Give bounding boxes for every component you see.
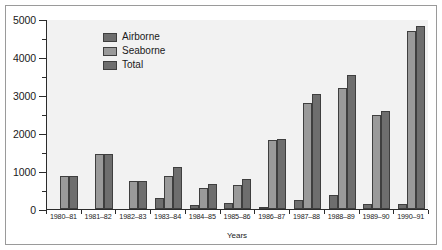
y-tick-label: 4000	[13, 52, 36, 64]
bar-total	[277, 139, 286, 209]
x-tick-label: 1981–82	[85, 212, 112, 221]
legend-swatch-icon	[103, 47, 117, 56]
bar-seaborne	[129, 181, 138, 209]
x-axis-title: Years	[46, 231, 428, 240]
legend-swatch-icon	[103, 61, 117, 70]
bar-group	[360, 20, 395, 209]
bar-seaborne	[268, 140, 277, 209]
bar-total	[173, 167, 182, 209]
bar-airborne	[190, 205, 199, 209]
bar-total	[69, 176, 78, 209]
y-tick-label: 3000	[13, 90, 36, 102]
bar-seaborne	[303, 103, 312, 209]
bar-airborne	[398, 204, 407, 209]
x-tick-label: 1983–84	[154, 212, 181, 221]
x-tick-label: 1986–87	[258, 212, 285, 221]
bar-group	[47, 20, 82, 209]
bar-airborne	[363, 204, 372, 209]
bar-airborne	[155, 198, 164, 209]
bar-seaborne	[372, 115, 381, 209]
legend-item-airborne: Airborne	[103, 31, 165, 43]
bar-seaborne	[233, 185, 242, 209]
bar-total	[416, 26, 425, 209]
bar-group	[394, 20, 429, 209]
legend-item-seaborne: Seaborne	[103, 45, 165, 57]
y-tick-major	[39, 134, 46, 135]
bar-total	[208, 184, 217, 209]
y-tick-label: 0	[30, 204, 36, 216]
bar-airborne	[259, 207, 268, 209]
y-tick-major	[39, 172, 46, 173]
bar-total	[104, 154, 113, 209]
legend-item-total: Total	[103, 59, 165, 71]
bar-airborne	[224, 203, 233, 209]
x-tick-label: 1987–88	[293, 212, 320, 221]
bar-seaborne	[199, 188, 208, 209]
y-tick-major	[39, 20, 46, 21]
bar-airborne	[294, 200, 303, 210]
bar-seaborne	[95, 154, 104, 209]
x-tick-label: 1980–81	[50, 212, 77, 221]
y-tick-major	[39, 96, 46, 97]
bar-seaborne	[60, 176, 69, 209]
bar-total	[381, 111, 390, 209]
y-tick-label: 2000	[13, 128, 36, 140]
bar-seaborne	[164, 176, 173, 209]
x-tick-label: 1982–83	[119, 212, 146, 221]
x-tick-label: 1985–86	[224, 212, 251, 221]
bar-seaborne	[407, 31, 416, 209]
y-tick-label: 5000	[13, 14, 36, 26]
bar-group	[325, 20, 360, 209]
y-axis: 010002000300040005000	[0, 0, 46, 212]
x-tick-label: 1984–85	[189, 212, 216, 221]
legend-label: Airborne	[122, 32, 160, 42]
x-tick-label: 1989–90	[362, 212, 389, 221]
x-tick-label: 1990–91	[397, 212, 424, 221]
x-tick-label: 1988–89	[328, 212, 355, 221]
legend-swatch-icon	[103, 33, 117, 42]
bar-airborne	[329, 195, 338, 209]
chart-legend: AirborneSeaborneTotal	[103, 31, 165, 71]
bar-total	[242, 179, 251, 209]
bar-total	[138, 181, 147, 209]
bar-seaborne	[338, 88, 347, 209]
bar-group	[290, 20, 325, 209]
bar-total	[312, 94, 321, 209]
chart-figure: 010002000300040005000 1980–811981–821982…	[0, 0, 442, 250]
bar-total	[347, 75, 356, 209]
y-tick-major	[39, 58, 46, 59]
bar-group	[186, 20, 221, 209]
x-tick	[428, 210, 429, 214]
x-axis-labels: 1980–811981–821982–831983–841984–851985–…	[46, 212, 428, 226]
bar-group	[221, 20, 256, 209]
legend-label: Seaborne	[122, 46, 165, 56]
y-tick-label: 1000	[13, 166, 36, 178]
legend-label: Total	[122, 60, 143, 70]
bar-group	[255, 20, 290, 209]
y-tick-major	[39, 210, 46, 211]
